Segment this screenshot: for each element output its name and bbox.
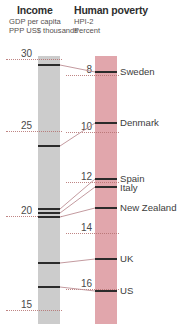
poverty-tick-label: 10 (74, 121, 92, 132)
country-label-us: US (120, 285, 133, 296)
poverty-gridline (66, 132, 119, 133)
income-marker (38, 64, 60, 66)
poverty-marker (95, 186, 117, 188)
poverty-gridline (66, 75, 119, 76)
poverty-tick-label: 8 (74, 64, 92, 75)
poverty-band (95, 56, 117, 324)
connector-line (60, 208, 95, 217)
country-label-new-zealand: New Zealand (120, 202, 177, 213)
connector-line (60, 259, 95, 263)
income-tick-label: 15 (10, 299, 32, 310)
income-marker (38, 145, 60, 147)
income-marker (38, 286, 60, 288)
poverty-marker (95, 178, 117, 180)
poverty-marker (95, 258, 117, 260)
income-marker (38, 216, 60, 218)
income-tick-label: 20 (10, 205, 32, 216)
income-marker (38, 262, 60, 264)
slopegraph-plot: 30252015 810121416 SwedenDenmarkSpainIta… (0, 0, 186, 332)
income-band (38, 56, 60, 324)
connector-line (60, 187, 95, 213)
country-label-uk: UK (120, 253, 133, 264)
connector-line (60, 179, 95, 209)
country-label-italy: Italy (120, 182, 138, 193)
poverty-marker (95, 122, 117, 124)
poverty-tick-label: 14 (74, 222, 92, 233)
income-gridline (6, 59, 62, 60)
poverty-marker (95, 207, 117, 209)
poverty-marker (95, 71, 117, 73)
income-tick-label: 25 (10, 120, 32, 131)
income-gridline (6, 310, 62, 311)
poverty-tick-label: 16 (74, 278, 92, 289)
income-marker (38, 212, 60, 214)
income-tick-label: 30 (10, 48, 32, 59)
poverty-tick-label: 12 (74, 171, 92, 182)
income-marker (38, 208, 60, 210)
country-label-denmark: Denmark (120, 117, 159, 128)
income-gridline (6, 131, 62, 132)
poverty-gridline (66, 182, 119, 183)
country-label-sweden: Sweden (120, 66, 155, 77)
poverty-gridline (66, 233, 119, 234)
poverty-marker (95, 290, 117, 292)
